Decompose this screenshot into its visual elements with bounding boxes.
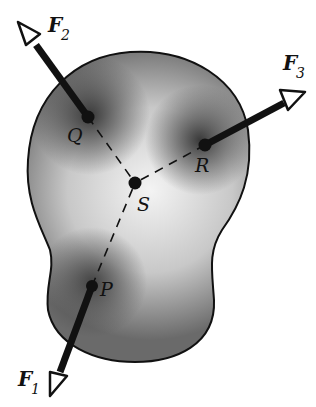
label-s: S (137, 193, 150, 215)
point-p-dot (86, 280, 98, 292)
force-diagram: Q R S P F 2 F 3 F 1 (0, 0, 316, 407)
label-p: P (99, 278, 114, 300)
label-q: Q (67, 124, 83, 146)
label-r: R (194, 154, 209, 176)
point-q-dot (82, 111, 95, 124)
svg-text:2: 2 (60, 27, 70, 43)
label-f1: F 1 (17, 367, 40, 397)
svg-text:1: 1 (31, 381, 40, 397)
point-r-dot (199, 139, 212, 152)
label-f2: F 2 (47, 13, 70, 43)
svg-text:3: 3 (296, 65, 305, 81)
label-f3: F 3 (282, 51, 305, 81)
point-s-dot (129, 177, 142, 190)
